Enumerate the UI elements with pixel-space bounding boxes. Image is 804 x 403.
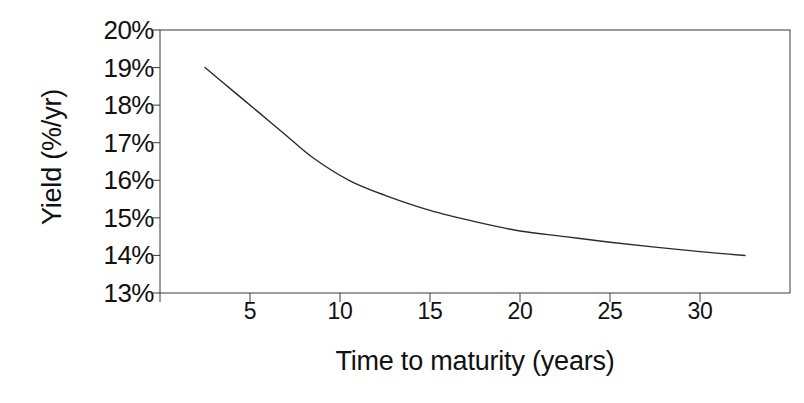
x-tick-label: 20 [490,300,550,323]
plot-frame [160,30,790,293]
x-tick-label: 10 [310,300,370,323]
plot-area [0,0,804,403]
data-series-group [205,68,745,256]
x-axis-title: Time to maturity (years) [160,345,790,377]
x-tick-label: 30 [670,300,730,323]
x-tick-label: 15 [400,300,460,323]
data-line [205,68,745,256]
chart-figure: Yield (%/yr) 13%14%15%16%17%18%19%20% 51… [0,0,804,403]
plot-frame-rect [160,30,790,293]
y-axis-ticks [151,30,160,293]
x-tick-label: 25 [580,300,640,323]
x-tick-label: 5 [220,300,280,323]
x-axis-tick-labels: 51015202530 [0,300,804,340]
